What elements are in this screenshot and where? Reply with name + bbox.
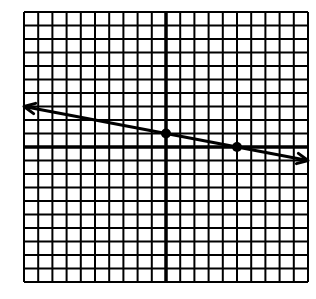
data-point xyxy=(161,129,171,139)
data-point xyxy=(232,142,242,152)
coordinate-grid xyxy=(0,0,316,299)
